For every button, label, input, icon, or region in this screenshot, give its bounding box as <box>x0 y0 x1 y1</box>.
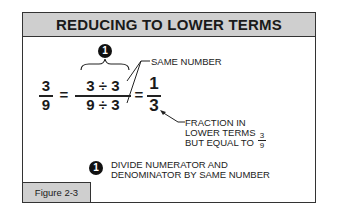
note-line2: DENOMINATOR BY SAME NUMBER <box>111 170 270 180</box>
fraction-label-line3: BUT EQUAL TO <box>185 138 254 148</box>
figure-label: Figure 2-3 <box>23 182 91 202</box>
figure-frame: REDUCING TO LOWER TERMS 3 9 = 1 3 ÷ 3 9 … <box>22 12 316 203</box>
same-number-label: SAME NUMBER <box>151 57 222 67</box>
note-marker: 1 <box>89 161 103 175</box>
equal-to-denominator: 9 <box>258 141 266 151</box>
